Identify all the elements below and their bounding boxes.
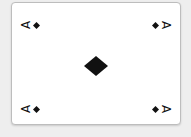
diamond-icon — [33, 106, 40, 113]
diamond-icon — [84, 56, 108, 76]
playing-card-ace-of-diamonds[interactable]: A A A A — [11, 2, 181, 125]
rank-label: A — [20, 21, 32, 29]
corner-index-bottom-right: A — [152, 103, 170, 115]
corner-index-bottom-left: A — [22, 103, 40, 115]
rank-label: A — [160, 21, 172, 29]
corner-index-top-left: A — [22, 19, 40, 31]
diamond-icon — [152, 106, 159, 113]
diamond-icon — [33, 22, 40, 29]
diamond-icon — [152, 22, 159, 29]
rank-label: A — [20, 105, 32, 113]
rank-label: A — [160, 105, 172, 113]
corner-index-top-right: A — [152, 19, 170, 31]
